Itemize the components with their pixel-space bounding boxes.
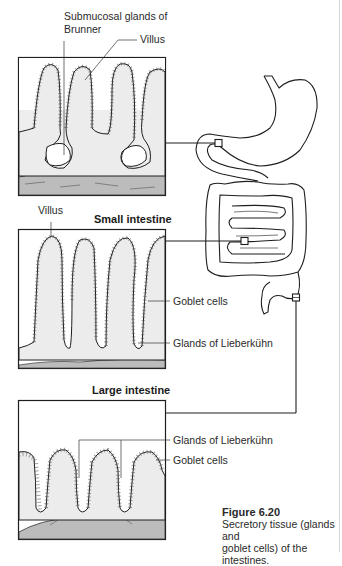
panel-duodenum — [19, 40, 166, 196]
panel-small-intestine — [19, 222, 171, 369]
digestive-tract-illustration — [196, 76, 317, 314]
panel-title-large-intestine: Large intestine — [92, 384, 170, 396]
label-brunner-glands-line2: Brunner — [64, 23, 101, 35]
label-villus-duodenum: Villus — [140, 33, 165, 45]
caption-line-2: goblet cells) of the intestines. — [222, 542, 307, 566]
figure-number: Figure 6.20 — [222, 506, 342, 518]
page-edge-divider — [339, 0, 340, 552]
label-goblet-cells-small: Goblet cells — [173, 295, 228, 307]
figure-caption: Figure 6.20 Secretory tissue (glands and… — [222, 506, 342, 566]
label-glands-lieberkuhn-small: Glands of Lieberkühn — [173, 337, 273, 349]
label-goblet-cells-large: Goblet cells — [173, 454, 228, 466]
label-villus-small-intestine: Villus — [38, 204, 63, 216]
panel-large-intestine — [19, 401, 171, 540]
label-glands-lieberkuhn-large: Glands of Lieberkühn — [173, 434, 273, 446]
panel-title-small-intestine: Small intestine — [94, 213, 172, 225]
caption-line-1: Secretory tissue (glands and — [222, 518, 335, 542]
label-brunner-glands-line1: Submucosal glands of — [64, 10, 167, 22]
